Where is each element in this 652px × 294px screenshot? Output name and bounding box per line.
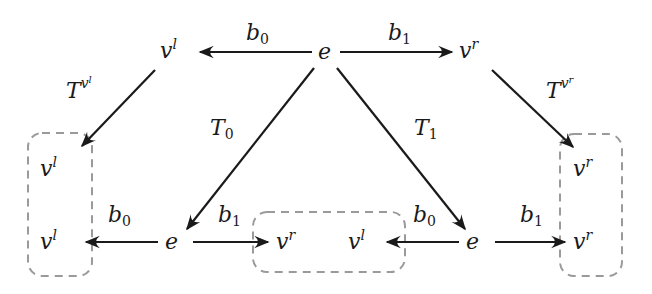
node-left-box-vl-top: vl — [40, 154, 57, 181]
edge-T0-e-to-bottom-left-e — [187, 68, 314, 229]
label-top-b0: b0 — [246, 20, 269, 47]
node-top-e: e — [318, 39, 331, 64]
node-bottom-right-e: e — [466, 229, 479, 254]
edge-T1-e-to-bottom-right-e — [337, 68, 465, 229]
node-middle-box-vr: vr — [276, 227, 296, 254]
left-dashed-box — [28, 133, 92, 276]
label-T0: T0 — [210, 115, 234, 142]
commutative-diagram: vl e vr b0 b1 Tvl Tvr T0 T1 vl vl e b0 b… — [0, 0, 652, 294]
edge-vl-to-left-box — [82, 70, 155, 146]
node-left-box-vl-bottom: vl — [40, 227, 57, 254]
label-bottom-left-b1: b1 — [218, 202, 241, 229]
label-T-vr: Tvr — [546, 74, 575, 103]
label-T1: T1 — [414, 115, 438, 142]
node-right-box-vr-bottom: vr — [573, 227, 593, 254]
label-bottom-left-b0: b0 — [108, 202, 131, 229]
node-top-vr: vr — [459, 36, 479, 63]
label-top-b1: b1 — [388, 20, 411, 47]
label-bottom-right-b0: b0 — [413, 202, 436, 229]
node-top-vl: vl — [160, 36, 177, 63]
node-middle-box-vl: vl — [348, 227, 365, 254]
label-T-vl: Tvl — [66, 74, 92, 103]
node-right-box-vr-top: vr — [573, 154, 593, 181]
node-bottom-left-e: e — [165, 229, 178, 254]
label-bottom-right-b1: b1 — [520, 202, 543, 229]
